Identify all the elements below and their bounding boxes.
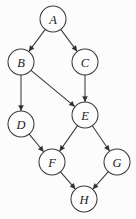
node-label: E: [80, 109, 89, 123]
graph-edge-a-c: [61, 29, 77, 51]
graph-node-c[interactable]: C: [72, 49, 98, 75]
arrowhead-icon: [29, 46, 34, 52]
graph-edge-e-f: [60, 126, 78, 151]
node-label: G: [112, 156, 121, 170]
node-label: F: [47, 156, 56, 170]
edge-line: [31, 70, 75, 106]
graph-node-d[interactable]: D: [8, 111, 34, 137]
graph-edge-c-e: [83, 75, 88, 101]
graph-edge-b-e: [31, 70, 75, 106]
arrowhead-icon: [104, 145, 109, 151]
graph-edge-f-h: [61, 172, 76, 189]
graph-edge-d-f: [29, 134, 43, 151]
node-label: C: [81, 56, 90, 70]
graph-edge-a-b: [29, 29, 45, 51]
node-label: D: [15, 118, 25, 132]
graph-edge-e-g: [92, 126, 109, 151]
graph-node-a[interactable]: A: [40, 6, 66, 32]
graph-diagram: ABCDEFGH: [0, 0, 136, 219]
node-label: H: [78, 193, 89, 207]
graph-node-e[interactable]: E: [72, 102, 98, 128]
arrowhead-icon: [83, 96, 88, 101]
arrowhead-icon: [72, 46, 77, 52]
graph-edge-b-d: [19, 75, 24, 110]
node-label: A: [48, 13, 57, 27]
graph-node-b[interactable]: B: [8, 49, 34, 75]
graph-node-f[interactable]: F: [39, 149, 65, 175]
graph-canvas: ABCDEFGH: [0, 0, 136, 219]
graph-node-h[interactable]: H: [71, 186, 97, 212]
arrowhead-icon: [19, 105, 24, 110]
graph-edge-g-h: [93, 172, 108, 189]
node-label: B: [17, 56, 25, 70]
arrowhead-icon: [60, 145, 65, 151]
graph-node-g[interactable]: G: [104, 149, 130, 175]
